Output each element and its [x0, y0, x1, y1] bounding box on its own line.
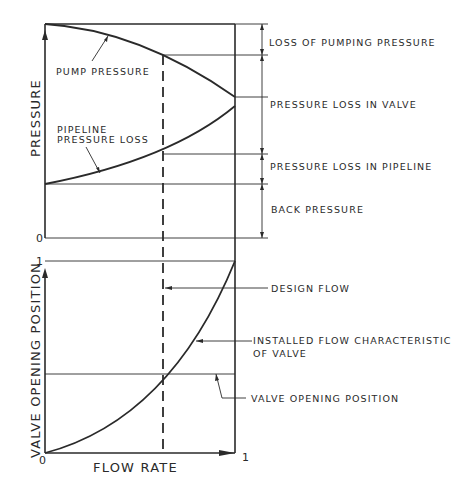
design-flow-label: DESIGN FLOW	[271, 283, 350, 294]
pipeline-pressure-loss-curve	[45, 106, 235, 184]
installed-flow-arrowhead	[196, 339, 203, 343]
design-flow-arrowhead	[165, 286, 172, 290]
installed-flow-label-line2: OF VALVE	[253, 348, 307, 359]
flow-rate-axis-label: FLOW RATE	[93, 460, 178, 475]
pump-pressure-curve	[45, 24, 235, 97]
installed-flow-characteristic-curve	[45, 261, 235, 453]
diagram-canvas: PRESSURE VALVE OPENING POSITION FLOW RAT…	[0, 0, 462, 491]
pressure-loss-in-pipeline-label: PRESSURE LOSS IN PIPELINE	[270, 161, 432, 172]
max-flow-tick: 1	[242, 451, 249, 464]
zero-pressure-tick: 0	[36, 232, 43, 245]
back-pressure-label: BACK PRESSURE	[271, 204, 364, 215]
top-y-axis-arrowhead	[42, 30, 48, 40]
pressure-loss-in-valve-label: PRESSURE LOSS IN VALVE	[270, 99, 417, 110]
valve-opening-position-label: VALVE OPENING POSITION	[251, 393, 399, 404]
origin-tick: 0	[39, 454, 46, 467]
pressure-axis-label: PRESSURE	[28, 79, 43, 157]
pipeline-label-line2: PRESSURE LOSS	[57, 134, 149, 145]
loss-of-pumping-pressure-label: LOSS OF PUMPING PRESSURE	[269, 37, 436, 48]
installed-flow-label-line1: INSTALLED FLOW CHARACTERISTIC	[253, 335, 452, 346]
valve-opening-axis-label: VALVE OPENING POSITION	[28, 262, 43, 458]
pump-pressure-label: PUMP PRESSURE	[56, 66, 150, 77]
full-open-tick: 1	[36, 255, 43, 268]
x-axis-arrowhead	[219, 450, 235, 456]
valve-opening-arrowhead	[215, 374, 219, 381]
valve-opening-leader	[216, 374, 246, 398]
